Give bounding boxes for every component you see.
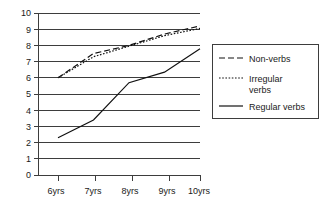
y-tick-label-4: 4 [26, 106, 31, 116]
x-tick-label-8yrs: 8yrs [121, 186, 139, 196]
legend-label-non-verbs: Non-verbs [249, 54, 291, 64]
x-axis: 6yrs 7yrs 8yrs 9yrs 10yrs [47, 175, 210, 196]
series-line-non-verbs [58, 26, 200, 78]
y-tick-label-5: 5 [26, 89, 31, 99]
x-tick-label-10yrs: 10yrs [188, 186, 211, 196]
y-axis: 10 9 8 7 6 5 4 3 2 1 0 [21, 8, 38, 180]
legend-label-irregular-verbs: Irregular [249, 74, 283, 84]
y-tick-label-7: 7 [26, 57, 31, 67]
legend: Non-verbs Irregular verbs Regular verbs [212, 44, 318, 118]
series-line-irregular-verbs [58, 28, 200, 77]
line-chart: 10 9 8 7 6 5 4 3 2 1 0 6yrs 7yrs 8yrs 9y… [0, 0, 331, 208]
data-series-group [58, 26, 200, 138]
y-tick-label-6: 6 [26, 73, 31, 83]
x-tick-label-6yrs: 6yrs [47, 186, 65, 196]
legend-label-irregular-verbs-line2: verbs [249, 85, 272, 95]
y-tick-label-0: 0 [26, 170, 31, 180]
y-tick-label-8: 8 [26, 41, 31, 51]
chart-canvas: 10 9 8 7 6 5 4 3 2 1 0 6yrs 7yrs 8yrs 9y… [0, 0, 331, 208]
x-tick-label-7yrs: 7yrs [84, 186, 102, 196]
y-tick-label-2: 2 [26, 138, 31, 148]
legend-label-regular-verbs: Regular verbs [249, 102, 306, 112]
y-tick-label-3: 3 [26, 122, 31, 132]
y-tick-label-1: 1 [26, 154, 31, 164]
x-tick-label-9yrs: 9yrs [158, 186, 176, 196]
y-tick-label-10: 10 [21, 8, 31, 18]
y-tick-label-9: 9 [26, 25, 31, 35]
